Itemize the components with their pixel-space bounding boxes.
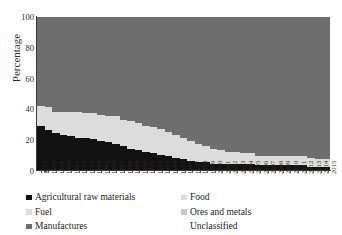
legend-swatch-icon — [181, 224, 187, 230]
legend-label: Agricultural raw materials — [35, 192, 135, 202]
legend-item[interactable]: Fuel — [26, 205, 176, 220]
legend-swatch-icon — [26, 195, 32, 201]
y-tick-label: 80 — [26, 44, 35, 52]
legend-swatch-icon — [26, 224, 32, 230]
legend-column-2: FoodOres and metalsUnclassified — [181, 190, 341, 234]
y-tick-label: 20 — [26, 136, 35, 144]
x-tick-mark — [260, 171, 261, 173]
legend-swatch-icon — [181, 195, 187, 201]
legend-label: Manufactures — [35, 221, 87, 231]
legend-label: Fuel — [35, 207, 52, 217]
legend-label: Food — [190, 192, 210, 202]
y-tick-label: 100 — [21, 13, 34, 21]
x-tick-mark — [56, 171, 57, 173]
x-tick-mark — [139, 171, 140, 173]
x-tick-label: 2015 — [331, 148, 342, 174]
stack-segment — [322, 17, 330, 159]
legend-item[interactable]: Manufactures — [26, 219, 176, 234]
legend-label: Ores and metals — [190, 207, 251, 217]
x-tick-mark — [313, 171, 314, 173]
legend-swatch-icon — [181, 209, 187, 215]
legend-label: Unclassified — [190, 221, 238, 231]
y-tick-label: 0 — [30, 167, 34, 175]
x-tick-mark — [298, 171, 299, 173]
plot-wrapper: Percentage 020406080100 1977197819791980… — [0, 0, 342, 182]
chart-figure: Percentage 020406080100 1977197819791980… — [0, 0, 342, 235]
legend-item[interactable]: Unclassified — [181, 219, 341, 234]
legend-swatch-icon — [26, 209, 32, 215]
x-tick-mark — [124, 171, 125, 173]
y-tick-label: 40 — [26, 105, 35, 113]
x-tick-mark — [86, 171, 87, 173]
x-tick-mark — [71, 171, 72, 173]
x-tick-mark — [177, 171, 178, 173]
y-tick-label: 60 — [26, 75, 35, 83]
chart-legend: Agricultural raw materialsFuelManufactur… — [26, 190, 342, 234]
legend-item[interactable]: Agricultural raw materials — [26, 190, 176, 205]
x-tick-mark — [192, 171, 193, 173]
y-axis-tick-labels: 020406080100 — [8, 11, 34, 171]
legend-column-1: Agricultural raw materialsFuelManufactur… — [26, 190, 176, 234]
legend-item[interactable]: Food — [181, 190, 341, 205]
legend-item[interactable]: Ores and metals — [181, 205, 341, 220]
x-tick-mark — [245, 171, 246, 173]
